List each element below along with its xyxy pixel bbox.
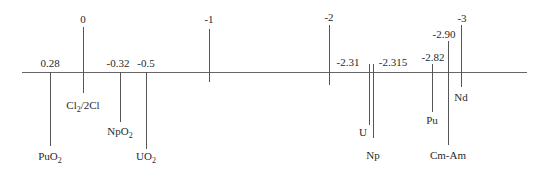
couple-label-puo2: PuO2: [38, 150, 62, 165]
potential-label-np: -2.315: [379, 56, 408, 68]
couple-label-u: U: [359, 126, 367, 138]
couple-uo2: -0.5 UO2: [136, 57, 156, 165]
potential-label-u: -2.31: [337, 56, 360, 68]
tick-label-minus-2: -2: [324, 11, 333, 23]
couple-pu: -2.82 Pu: [422, 51, 445, 126]
couple-label-nd: Nd: [454, 91, 468, 103]
couple-label-np: Np: [366, 149, 380, 161]
tick-label-0: 0: [80, 13, 86, 25]
tick-0: 0 Cl2/2Cl: [66, 13, 99, 114]
tick-label-minus-1: -1: [204, 13, 213, 25]
couple-label-npo2: NpO2: [107, 125, 132, 140]
couple-label-cm-am: Cm-Am: [430, 149, 467, 161]
couple-npo2: -0.32 NpO2: [107, 57, 133, 140]
couple-label-pu: Pu: [426, 114, 438, 126]
tick-minus-3: -3 Nd: [454, 12, 468, 103]
couple-u: -2.31 U: [337, 56, 369, 138]
potential-label-pu: -2.82: [422, 51, 445, 63]
potential-label-puo2: 0.28: [40, 57, 60, 69]
potential-scale-diagram: 0 Cl2/2Cl -1 -2 -3 Nd 0.28 PuO2 -0.32 Np…: [0, 0, 544, 173]
potential-label-cm-am: -2.90: [433, 28, 456, 40]
potential-label-uo2: -0.5: [137, 57, 155, 69]
couple-puo2: 0.28 PuO2: [38, 57, 62, 165]
potential-label-npo2: -0.32: [107, 57, 130, 69]
tick-minus-2: -2: [324, 11, 333, 85]
couple-label-cl2: Cl2/2Cl: [66, 99, 99, 114]
couple-label-uo2: UO2: [136, 150, 156, 165]
tick-label-minus-3: -3: [457, 12, 467, 24]
